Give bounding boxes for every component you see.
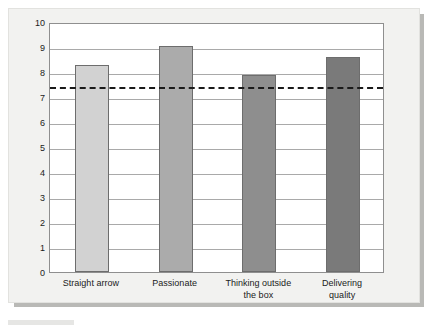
bar[interactable] [159, 46, 193, 272]
bar[interactable] [75, 65, 109, 273]
caption-rule [8, 320, 74, 325]
bar[interactable] [242, 75, 276, 273]
gridline [50, 49, 383, 50]
screenshot-root: 109876543210 Straight arrowPassionateThi… [0, 0, 437, 333]
y-tick-label: 3 [11, 194, 45, 203]
plot-area [49, 23, 384, 273]
y-tick-label: 10 [11, 19, 45, 28]
y-tick-label: 6 [11, 119, 45, 128]
plot-wrapper: 109876543210 Straight arrowPassionateThi… [9, 9, 421, 304]
y-tick-label: 5 [11, 144, 45, 153]
figure-panel: 109876543210 Straight arrowPassionateThi… [8, 8, 420, 303]
y-tick-label: 9 [11, 44, 45, 53]
y-tick-label: 1 [11, 244, 45, 253]
y-tick-label: 4 [11, 169, 45, 178]
y-tick-label: 2 [11, 219, 45, 228]
bar[interactable] [326, 57, 360, 272]
y-tick-label: 8 [11, 69, 45, 78]
x-category-label: Delivering quality [287, 277, 397, 301]
y-axis-tick-labels: 109876543210 [9, 23, 45, 273]
y-tick-label: 7 [11, 94, 45, 103]
reference-line [50, 87, 383, 89]
